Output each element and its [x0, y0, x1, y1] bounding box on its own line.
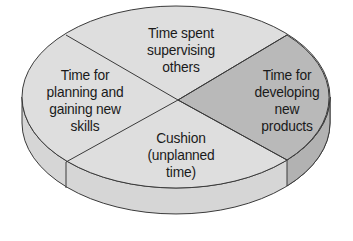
label-planning: Time for planning and gaining new skills: [34, 66, 135, 134]
label-line: developing: [241, 83, 333, 100]
label-supervising: Time spent supervising others: [130, 24, 231, 75]
label-line: (unplanned: [130, 146, 231, 163]
label-line: gaining new: [34, 100, 135, 117]
label-line: planning and: [34, 83, 135, 100]
label-line: products: [241, 117, 333, 134]
label-developing: Time for developing new products: [241, 66, 333, 134]
label-line: Time spent: [130, 24, 231, 41]
label-line: new: [241, 100, 333, 117]
label-line: Time for: [34, 66, 135, 83]
label-cushion: Cushion (unplanned time): [130, 129, 231, 180]
label-line: supervising: [130, 41, 231, 58]
label-line: others: [130, 58, 231, 75]
label-line: skills: [34, 117, 135, 134]
label-line: Time for: [241, 66, 333, 83]
label-line: time): [130, 163, 231, 180]
label-line: Cushion: [130, 129, 231, 146]
